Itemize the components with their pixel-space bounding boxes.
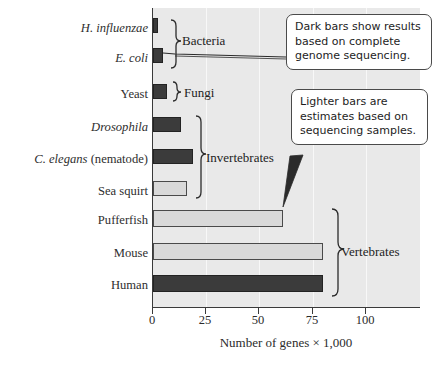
- category-label-h-influenzae: H. influenzae: [0, 21, 148, 36]
- callout-light-line-3: sequencing samples.: [300, 124, 420, 139]
- category-label-yeast: Yeast: [0, 87, 148, 102]
- bar-sea-squirt: [153, 181, 187, 196]
- bar-yeast: [153, 84, 167, 99]
- axis-tick-label-25: 25: [199, 313, 212, 328]
- callout-light-line-1: Lighter bars are: [300, 95, 420, 110]
- bar-pufferfish: [153, 210, 283, 227]
- label-italic-part: C. elegans: [34, 152, 87, 166]
- category-label-human: Human: [0, 278, 148, 293]
- x-axis-title: Number of genes × 1,000: [152, 335, 420, 351]
- label-italic-part: Drosophila: [91, 120, 148, 134]
- category-label-sea-squirt: Sea squirt: [0, 184, 148, 199]
- callout-light-line-2: estimates based on: [300, 110, 420, 125]
- category-label-e-coli: E. coli: [0, 51, 148, 66]
- bar-drosophila: [153, 117, 181, 132]
- label-roman-part: Human: [111, 278, 148, 292]
- bar-c-elegans: [153, 149, 193, 164]
- group-label-invertebrates: Invertebrates: [206, 150, 274, 166]
- callout-dark-line-2: based on complete: [295, 35, 424, 50]
- axis-tick-label-75: 75: [306, 313, 319, 328]
- label-roman-part: Yeast: [121, 87, 148, 101]
- gene-count-bar-chart: H. influenzae E. coli Yeast Drosophila C…: [0, 0, 436, 367]
- label-roman-part: Sea squirt: [98, 184, 148, 198]
- axis-tick-label-100: 100: [356, 313, 375, 328]
- label-italic-part: H. influenzae: [81, 21, 148, 35]
- axis-tick-label-0: 0: [149, 313, 155, 328]
- label-italic-part: E. coli: [115, 51, 148, 65]
- category-label-c-elegans: C. elegans (nematode): [0, 152, 148, 167]
- callout-light-bars: Lighter bars are estimates based on sequ…: [291, 89, 428, 145]
- callout-dark-line-3: genome sequencing.: [295, 49, 424, 64]
- category-label-pufferfish: Pufferfish: [0, 213, 148, 228]
- label-roman-part: Pufferfish: [98, 213, 148, 227]
- bar-e-coli: [153, 48, 163, 63]
- axis-tick-label-50: 50: [252, 313, 265, 328]
- label-roman-part: Mouse: [114, 246, 148, 260]
- group-label-vertebrates: Vertebrates: [341, 244, 399, 260]
- bar-human: [153, 275, 323, 292]
- label-roman-part: (nematode): [88, 152, 149, 166]
- callout-dark-bars: Dark bars show results based on complete…: [286, 14, 432, 70]
- category-label-drosophila: Drosophila: [0, 120, 148, 135]
- category-label-mouse: Mouse: [0, 246, 148, 261]
- group-label-fungi: Fungi: [184, 85, 214, 101]
- bar-mouse: [153, 243, 323, 260]
- callout-dark-line-1: Dark bars show results: [295, 20, 424, 35]
- bar-h-influenzae: [153, 18, 158, 33]
- group-label-bacteria: Bacteria: [182, 33, 225, 49]
